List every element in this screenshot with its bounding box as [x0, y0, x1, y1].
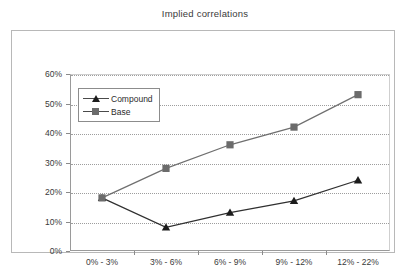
chart-legend: Compound Base: [78, 88, 160, 122]
x-tick-label: 3% - 6%: [150, 257, 182, 267]
x-tick-mark: [134, 251, 135, 255]
y-tick-label: 40%: [28, 128, 62, 138]
data-point-compound-4[interactable]: [354, 176, 362, 183]
series-line-compound: [102, 180, 358, 227]
chart-plot-frame: 0%10%20%30%40%50%60% 0% - 3%3% - 6%6% - …: [11, 30, 395, 253]
x-tick-label: 9% - 12%: [276, 257, 313, 267]
y-tick-label: 20%: [28, 187, 62, 197]
legend-label-base: Base: [111, 107, 130, 117]
x-tick-mark: [198, 251, 199, 255]
y-tick-label: 50%: [28, 99, 62, 109]
x-tick-label: 12% - 22%: [337, 257, 379, 267]
x-tick-label: 6% - 9%: [214, 257, 246, 267]
y-tick-label: 30%: [28, 158, 62, 168]
data-point-base-4[interactable]: [354, 91, 361, 98]
y-tick-label: 10%: [28, 217, 62, 227]
data-point-base-1[interactable]: [162, 165, 169, 172]
y-tick-mark: [66, 251, 70, 252]
x-tick-mark: [262, 251, 263, 255]
data-point-base-2[interactable]: [226, 141, 233, 148]
legend-key-square-icon: [83, 106, 109, 117]
chart-title: Implied correlations: [0, 8, 410, 19]
data-point-base-3[interactable]: [290, 124, 297, 131]
y-tick-label: 60%: [28, 69, 62, 79]
y-tick-label: 0%: [28, 246, 62, 256]
x-tick-mark: [326, 251, 327, 255]
legend-item-base[interactable]: Base: [83, 105, 153, 118]
legend-key-triangle-icon: [83, 93, 109, 104]
legend-item-compound[interactable]: Compound: [83, 92, 153, 105]
data-point-base-0[interactable]: [98, 194, 105, 201]
x-tick-label: 0% - 3%: [86, 257, 118, 267]
legend-label-compound: Compound: [111, 94, 153, 104]
